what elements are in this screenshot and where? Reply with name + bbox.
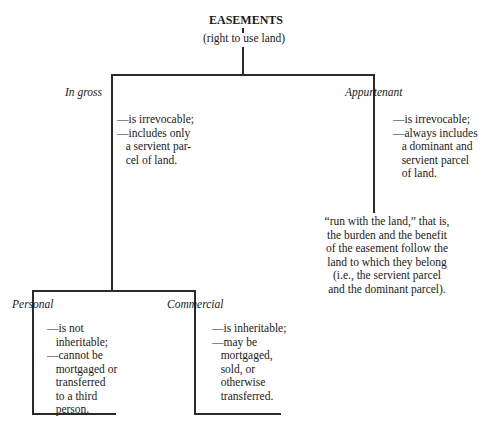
appurtenant-notes: —is irrevocable; —always includes a domi… [393, 113, 478, 181]
personal-label: Personal [12, 298, 54, 312]
commercial-label: Commercial [167, 298, 223, 312]
note-line: a servient par- [117, 140, 194, 154]
note-line: inheritable; [47, 336, 117, 350]
note-line: to a third [47, 390, 117, 404]
note-line: the burden and the benefit [292, 229, 482, 243]
note-line: —is irrevocable; [393, 113, 478, 127]
run-with-land-note: “run with the land,” that is, the burden… [292, 215, 482, 296]
in-gross-notes: —is irrevocable; —includes only a servie… [117, 113, 194, 167]
note-line: “run with the land,” that is, [292, 215, 482, 229]
note-line: —may be [212, 336, 286, 350]
commercial-base [194, 413, 281, 415]
root-subtitle: (right to use land) [203, 32, 285, 46]
note-line: servient parcel [393, 154, 478, 168]
note-line: —always includes [393, 127, 478, 141]
personal-notes: —is not inheritable; —cannot be mortgage… [47, 322, 117, 417]
note-line: transferred. [212, 390, 286, 404]
in-gross-label: In gross [65, 86, 102, 100]
root-title: EASEMENTS [209, 14, 283, 28]
note-line: mortgaged, [212, 349, 286, 363]
note-line: (i.e., the servient parcel [292, 269, 482, 283]
note-line: —is inheritable; [212, 322, 286, 336]
note-line: mortgaged or [47, 363, 117, 377]
level1-bar [111, 74, 374, 76]
note-line: a dominant and [393, 140, 478, 154]
note-line: —is not [47, 322, 117, 336]
note-line: sold, or [212, 363, 286, 377]
note-line: person. [47, 403, 117, 417]
root-connector [242, 47, 244, 75]
note-line: land to which they belong [292, 256, 482, 270]
note-line: and the dominant parcel). [292, 283, 482, 297]
note-line: —cannot be [47, 349, 117, 363]
in-gross-connector [111, 74, 113, 291]
appurtenant-label: Appurtenant [345, 86, 403, 100]
note-line: —includes only [117, 127, 194, 141]
level2-bar [32, 290, 195, 292]
note-line: cel of land. [117, 154, 194, 168]
note-line: of land. [393, 167, 478, 181]
note-line: transferred [47, 376, 117, 390]
note-line: of the easement follow the [292, 242, 482, 256]
note-line: —is irrevocable; [117, 113, 194, 127]
commercial-notes: —is inheritable; —may be mortgaged, sold… [212, 322, 286, 403]
note-line: otherwise [212, 376, 286, 390]
